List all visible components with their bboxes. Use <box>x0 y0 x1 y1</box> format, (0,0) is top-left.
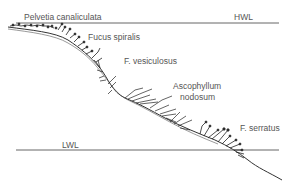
shore-diagram <box>0 0 299 188</box>
label-fucus-spiralis: Fucus spiralis <box>88 33 140 42</box>
label-ascophyllum-line1: Ascophyllum <box>173 82 221 91</box>
label-pelvetia-canaliculata: Pelvetia canaliculata <box>24 13 102 22</box>
label-f-serratus: F. serratus <box>240 124 280 133</box>
label-ascophyllum-line2: nodosum <box>180 93 215 102</box>
label-hwl: HWL <box>234 13 253 22</box>
label-f-vesiculosus: F. vesiculosus <box>124 57 177 66</box>
fucus-spiralis-seaweed-icon <box>58 23 102 62</box>
label-lwl: LWL <box>62 141 79 150</box>
